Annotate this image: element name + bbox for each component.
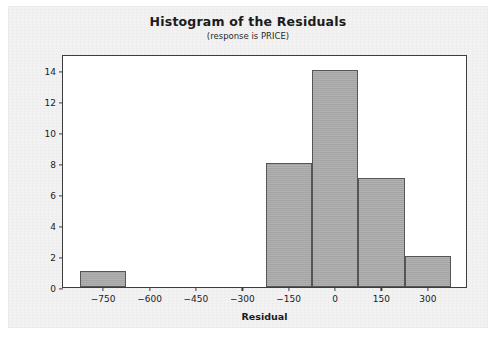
histogram-bar	[358, 178, 404, 287]
x-axis-title: Residual	[62, 311, 467, 322]
y-tick-label: 2	[50, 253, 63, 263]
y-tick-label: 14	[45, 67, 63, 77]
y-tick-label: 6	[50, 191, 63, 201]
y-tick-label: 8	[50, 160, 63, 170]
bars-layer	[63, 56, 466, 287]
histogram-bar	[405, 256, 451, 287]
histogram-bar	[312, 70, 358, 287]
y-tick-label: 12	[45, 98, 63, 108]
histogram-screenshot: Histogram of the Residuals (response is …	[0, 0, 496, 350]
x-tick-label: 300	[419, 287, 436, 304]
y-tick-label: 4	[50, 222, 63, 232]
chart-subtitle: (response is PRICE)	[0, 31, 496, 41]
y-tick-label: 0	[50, 284, 63, 294]
x-tick-label: 0	[332, 287, 338, 304]
x-tick-label: −750	[91, 287, 116, 304]
plot-frame: 02468101214 −750−600−450−300−1500150300	[62, 55, 467, 288]
histogram-bar	[80, 271, 126, 287]
chart-title: Histogram of the Residuals	[0, 14, 496, 29]
x-tick-label: −450	[184, 287, 209, 304]
x-tick-label: −150	[276, 287, 301, 304]
x-tick-label: −600	[137, 287, 162, 304]
x-tick-label: −300	[230, 287, 255, 304]
x-tick-label: 150	[373, 287, 390, 304]
histogram-bar	[266, 163, 312, 287]
y-tick-label: 10	[45, 129, 63, 139]
